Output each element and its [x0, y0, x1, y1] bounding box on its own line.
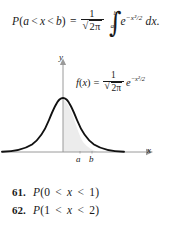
- y-axis-label: y: [59, 52, 63, 62]
- fx-exponent: −x²/2: [131, 75, 145, 82]
- tick-label-a: a: [76, 154, 81, 164]
- exercise-number: 61.: [12, 186, 33, 198]
- fx-fraction-denominator: √2π: [103, 82, 125, 94]
- formula-equals: =: [66, 15, 81, 27]
- curve-plot: [0, 52, 190, 174]
- density-function-formula: f(x)=1√2πe−x²/2: [76, 72, 145, 95]
- list-item: 62. P(1 < x < 2): [12, 204, 190, 222]
- formula-fraction: 1√2π: [81, 8, 104, 33]
- sqrt-group: √2π: [83, 20, 102, 33]
- differential-dx: dx.: [143, 15, 160, 27]
- radical-sign: √: [83, 20, 89, 31]
- formula-lt-1: <: [29, 15, 40, 27]
- fraction-denominator: √2π: [81, 20, 104, 33]
- fx-radical-sign: √: [105, 81, 110, 91]
- radicand: 2π: [89, 20, 102, 33]
- x-axis-label: x: [147, 145, 151, 155]
- integral-upper-limit: b: [114, 10, 118, 17]
- exercise-number: 62.: [12, 204, 33, 216]
- normal-distribution-figure: y x a b f(x)=1√2πe−x²/2: [0, 52, 190, 174]
- fx-sqrt-group: √2π: [105, 82, 123, 94]
- fx-fraction: 1√2π: [103, 71, 125, 94]
- exercise-list: 61. P(0 < x < 1) 62. P(1 < x < 2): [12, 186, 190, 222]
- integral-symbol: ∫ba: [107, 17, 120, 29]
- exercise-text: P(1 < x < 2): [33, 205, 99, 217]
- integrand-exponent: −x²/2: [126, 14, 143, 22]
- fx-equals: =: [91, 77, 103, 88]
- list-item: 61. P(0 < x < 1): [12, 186, 190, 204]
- fx-base: e: [124, 77, 131, 88]
- formula-lt-2: <: [45, 15, 56, 27]
- probability-formula: P(a<x<b)=1√2π∫bae−x²/2dx.: [12, 10, 160, 35]
- fx-radicand: 2π: [111, 82, 123, 94]
- exercise-text: P(0 < x < 1): [33, 187, 99, 199]
- integral-lower-limit: a: [111, 23, 115, 30]
- tick-label-b: b: [89, 154, 94, 164]
